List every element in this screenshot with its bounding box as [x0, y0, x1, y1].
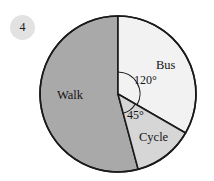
pie-chart-figure: 4 Walk Bus Cycle 120° 45°	[0, 0, 214, 181]
pie-label-walk: Walk	[57, 88, 83, 103]
question-number-text: 4	[20, 20, 26, 35]
pie-label-cycle: Cycle	[139, 130, 168, 145]
angle-label-120: 120°	[134, 73, 157, 88]
angle-label-45: 45°	[127, 108, 144, 123]
question-number-badge: 4	[10, 15, 35, 40]
pie-label-bus: Bus	[156, 58, 175, 73]
